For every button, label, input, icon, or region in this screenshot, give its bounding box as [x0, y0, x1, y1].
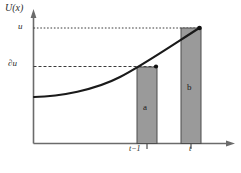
y-tick-label-partial-u: ∂u [8, 59, 17, 68]
bar-label-a: a [143, 103, 147, 112]
x-tick-label-t-minus-1: t−1 [129, 145, 141, 153]
figure-container: U(x) u ∂u t−1 t a b [0, 0, 241, 173]
bar-a [137, 67, 157, 144]
utility-curve [34, 28, 200, 98]
plot-canvas [0, 0, 241, 173]
y-tick-label-u: u [18, 22, 23, 31]
curve-point-t [197, 26, 202, 31]
curve-point-t-minus-1 [154, 64, 158, 68]
y-axis [31, 9, 37, 144]
bar-label-b: b [187, 83, 192, 92]
x-tick-label-t: t [189, 145, 191, 153]
y-axis-title: U(x) [5, 3, 23, 13]
